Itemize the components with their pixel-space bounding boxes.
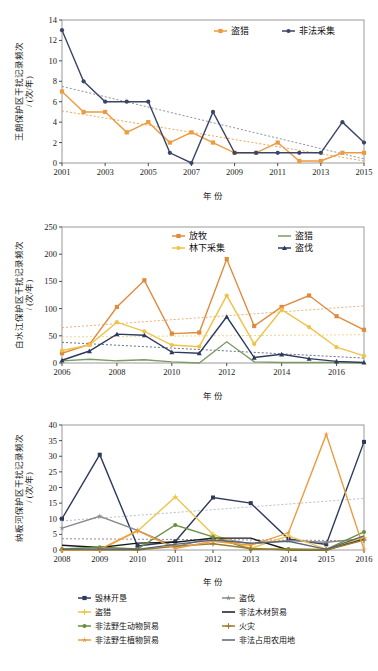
y-tick-label: 6: [53, 97, 57, 107]
x-tick-label: 2006: [54, 367, 71, 377]
legend-item-盗伐[interactable]: 盗伐: [278, 242, 313, 253]
trendline: [62, 342, 364, 358]
x-tick-label: 2008: [54, 554, 71, 564]
legend-item-非法木材贸易[interactable]: 非法木材贸易: [222, 607, 287, 617]
y-tick-label: 25: [49, 467, 58, 477]
series-line: [62, 442, 364, 546]
y-tick-label: 4: [53, 117, 58, 127]
y-tick-label: 10: [49, 56, 58, 66]
legend-label: 火灾: [239, 621, 255, 631]
x-axis-label: 年 份: [203, 577, 223, 587]
y-tick-label: 35: [49, 436, 58, 446]
y-tick-label: 50: [49, 331, 58, 341]
trendline: [62, 306, 364, 328]
legend-item-盗伐[interactable]: 盗伐: [222, 593, 255, 603]
y-tick-label: 12: [49, 35, 58, 45]
x-tick-label: 2009: [91, 554, 108, 564]
x-tick-label: 2001: [54, 167, 71, 177]
shared-legend-nabanhe: 毁林开垦盗猎非法野生动物贸易非法野生植物贸易盗伐非法木材贸易火灾非法占用农用地: [0, 590, 378, 668]
plot-frame: [62, 425, 364, 550]
chart-panel-nabanhe: 0510152025303540200820092010201120122013…: [0, 405, 378, 590]
y-axis-label-main: 纳板河保护区干扰记录频次: [14, 434, 24, 542]
y-axis-label: 纳板河保护区干扰记录频次/ (次/年): [14, 434, 34, 542]
legend-label: 盗猎: [231, 25, 249, 36]
chart-panel-baishuijiang: 050100150200250200620082010201220142016白…: [0, 205, 378, 405]
y-axis-label-unit: / (次/年): [24, 280, 34, 311]
y-axis-label-main: 王朗保护区干扰记录频次: [14, 42, 24, 141]
x-tick-label: 2007: [183, 167, 200, 177]
y-tick-label: 100: [44, 304, 57, 314]
legend-item-非法野生植物贸易[interactable]: 非法野生植物贸易: [78, 635, 159, 645]
x-tick-label: 2015: [356, 167, 373, 177]
series-line: [62, 296, 364, 356]
legend-label: 盗猎: [295, 230, 313, 241]
legend-item-火灾[interactable]: 火灾: [222, 621, 255, 631]
legend-item-盗猎[interactable]: 盗猎: [78, 607, 111, 617]
y-tick-label: 30: [49, 451, 58, 461]
x-tick-label: 2014: [273, 367, 291, 377]
legend-label: 盗伐: [295, 242, 313, 253]
y-tick-label: 10: [49, 514, 58, 524]
y-tick-label: 200: [44, 249, 57, 259]
x-tick-label: 2008: [108, 367, 125, 377]
legend-label: 毁林开垦: [95, 593, 127, 603]
legend-item-盗猎[interactable]: 盗猎: [278, 230, 313, 241]
x-axis-label: 年 份: [203, 191, 223, 201]
y-tick-label: 2: [53, 138, 57, 148]
figure-page: 0246810121420012003200520072009201120132…: [0, 0, 378, 671]
x-tick-label: 2011: [269, 167, 286, 177]
series-line: [62, 259, 364, 353]
chart-panel-wanglang: 0246810121420012003200520072009201120132…: [0, 0, 378, 205]
legend-label: 林下采集: [189, 242, 225, 253]
x-tick-label: 2010: [129, 554, 146, 564]
y-tick-label: 40: [49, 420, 58, 430]
y-tick-label: 250: [44, 222, 57, 232]
x-tick-label: 2014: [280, 554, 298, 564]
y-tick-label: 15: [49, 498, 58, 508]
y-axis-label-main: 白水江保护区干扰记录频次: [14, 241, 24, 349]
x-tick-label: 2012: [218, 367, 235, 377]
y-axis-label-unit: / (次/年): [24, 472, 34, 503]
legend-label: 盗猎: [95, 607, 111, 617]
legend-label: 非法野生植物贸易: [95, 635, 159, 645]
legend-item-非法采集[interactable]: 非法采集: [282, 25, 335, 36]
legend-item-非法野生动物贸易[interactable]: 非法野生动物贸易: [78, 621, 159, 631]
legend-item-毁林开垦[interactable]: 毁林开垦: [78, 593, 127, 603]
legend-item-非法占用农用地[interactable]: 非法占用农用地: [222, 635, 295, 645]
legend-item-盗猎[interactable]: 盗猎: [214, 25, 249, 36]
chart-svg-wanglang: 0246810121420012003200520072009201120132…: [0, 0, 378, 205]
legend-item-放牧[interactable]: 放牧: [172, 230, 207, 241]
x-tick-label: 2012: [205, 554, 222, 564]
x-tick-label: 2005: [140, 167, 157, 177]
x-tick-label: 2003: [97, 167, 114, 177]
trendline: [62, 498, 364, 521]
x-tick-label: 2016: [356, 554, 373, 564]
x-tick-label: 2015: [318, 554, 335, 564]
y-axis-label: 王朗保护区干扰记录频次/ (次/年): [14, 42, 34, 141]
y-axis-label: 白水江保护区干扰记录频次/ (次/年): [14, 241, 34, 349]
legend-label: 非法木材贸易: [239, 607, 287, 617]
y-axis-label-unit: / (次/年): [24, 76, 34, 107]
y-tick-label: 20: [49, 483, 58, 493]
legend-label: 放牧: [189, 230, 207, 241]
y-tick-label: 8: [53, 76, 57, 86]
x-tick-label: 2010: [163, 367, 180, 377]
x-tick-label: 2009: [226, 167, 243, 177]
x-axis-label: 年 份: [203, 391, 223, 401]
y-tick-label: 5: [53, 529, 57, 539]
x-tick-label: 2013: [242, 554, 259, 564]
y-tick-label: 150: [44, 276, 57, 286]
legend-label: 盗伐: [239, 593, 255, 603]
chart-svg-nabanhe: 0510152025303540200820092010201120122013…: [0, 405, 378, 590]
legend-label: 非法采集: [299, 25, 335, 36]
trendline: [62, 86, 364, 159]
legend-label: 非法占用农用地: [239, 635, 295, 645]
x-tick-label: 2013: [312, 167, 329, 177]
legend-panel-nabanhe: 毁林开垦盗猎非法野生动物贸易非法野生植物贸易盗伐非法木材贸易火灾非法占用农用地: [0, 590, 378, 668]
y-tick-label: 14: [49, 15, 58, 25]
chart-svg-baishuijiang: 050100150200250200620082010201220142016白…: [0, 205, 378, 405]
legend-item-林下采集[interactable]: 林下采集: [172, 242, 225, 253]
x-tick-label: 2016: [328, 367, 345, 377]
legend-label: 非法野生动物贸易: [95, 621, 159, 631]
x-tick-label: 2011: [167, 554, 184, 564]
